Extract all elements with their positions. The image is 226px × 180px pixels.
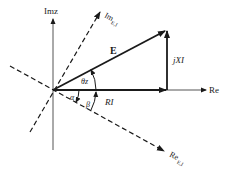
rotated-imaginary-axis-label: Im E,I: [102, 11, 121, 28]
jxi-label: jXI: [172, 55, 185, 65]
rotated-imaginary-axis: [30, 12, 100, 132]
ri-label: RI: [104, 97, 114, 107]
alpha-arc: [76, 90, 79, 102]
alpha-label: α: [70, 93, 75, 102]
e-vector: [53, 31, 165, 90]
phasor-diagram: Imz Re Im E,I Re E,I E jXI RI θz α β: [0, 0, 226, 180]
svg-text:E,I: E,I: [176, 159, 185, 167]
beta-label: β: [85, 100, 90, 109]
beta-arc: [91, 92, 96, 110]
e-vector-label: E: [110, 45, 117, 56]
rotated-real-axis-label: Re E,I: [167, 150, 187, 168]
theta-z-label: θz: [81, 77, 89, 86]
svg-text:E,I: E,I: [110, 19, 119, 27]
theta-z-arc: [91, 70, 96, 90]
real-axis-label: Re: [209, 85, 219, 95]
imaginary-axis-label: Imz: [44, 6, 58, 16]
phasor-diagram-svg: Imz Re Im E,I Re E,I E jXI RI θz α β: [0, 0, 226, 180]
